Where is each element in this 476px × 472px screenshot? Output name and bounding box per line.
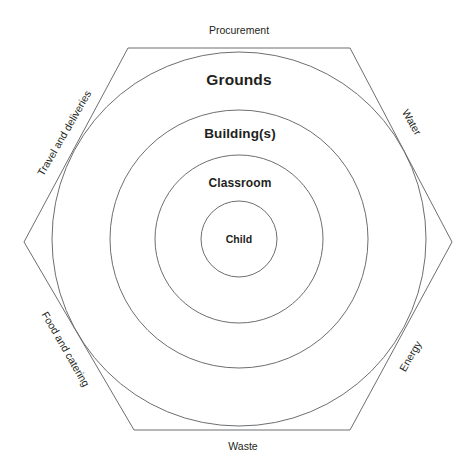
ring-label-classroom: Classroom: [209, 176, 272, 190]
ring-label-buildings: Building(s): [204, 126, 276, 141]
hexagon-edge-label-waste: Waste: [228, 440, 257, 452]
diagram-canvas: Grounds Building(s) Classroom Child Proc…: [0, 0, 476, 472]
hexagon-edge-label-procurement: Procurement: [209, 24, 269, 36]
ring-label-grounds: Grounds: [206, 71, 271, 89]
ring-label-child: Child: [226, 233, 253, 245]
